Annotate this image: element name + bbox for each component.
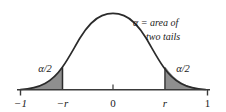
axis-tick-label-minus-one: −1 — [14, 97, 27, 109]
right-tail-alpha-label: α/2 — [176, 63, 190, 74]
statistics-bell-curve-figure: −1 −r 0 r 1 α/2 α/2 α = area of two tail… — [0, 0, 226, 112]
axis-tick-label-zero: 0 — [110, 97, 116, 109]
left-tail-alpha-label: α/2 — [38, 63, 52, 74]
annotation-line-one: α = area of — [133, 17, 179, 28]
annotation-line-two: two tails — [146, 31, 180, 42]
axis-tick-label-minus-r: −r — [57, 97, 69, 109]
axis-tick-label-one: 1 — [205, 97, 211, 109]
axis-tick-label-r: r — [163, 97, 168, 109]
